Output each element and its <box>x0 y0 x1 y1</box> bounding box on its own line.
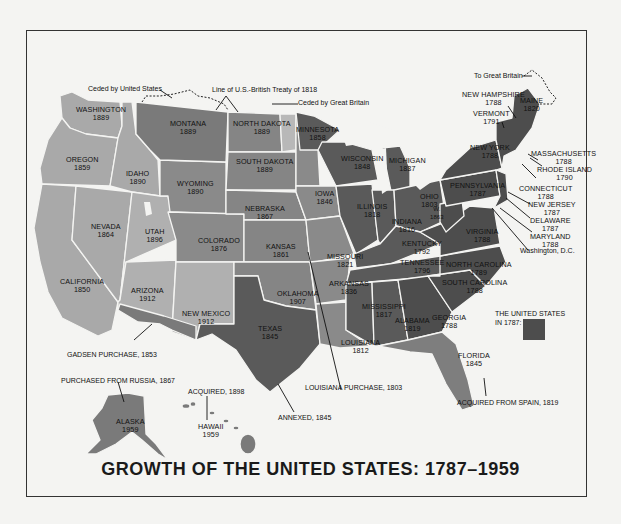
leader-spain <box>484 378 486 396</box>
annotation-louisiana-purchase: LOUISIANA PURCHASE, 1803 <box>305 384 402 392</box>
label-virginia: VIRGINIA1788 <box>466 228 498 244</box>
label-west-virginia: W.1863 <box>430 205 444 221</box>
label-indiana: INDIANA1816 <box>392 218 422 234</box>
label-georgia: GEORGIA1788 <box>432 314 466 330</box>
label-alabama: ALABAMA1819 <box>395 317 430 333</box>
annotation-ceded-by-us: Ceded by United States <box>88 85 162 93</box>
label-oklahoma: OKLAHOMA1907 <box>277 290 319 306</box>
label-north-carolina: NORTH CAROLINA1789 <box>446 261 512 277</box>
annotation-gadsen-purchase: GADSEN PURCHASE, 1853 <box>67 351 157 359</box>
leader-ct <box>522 164 536 178</box>
annotation-acquired-spain: ACQUIRED FROM SPAIN, 1819 <box>457 399 558 407</box>
label-missouri: MISSOURI1821 <box>327 253 363 269</box>
annotation-washington-dc: Washington, D.C. <box>520 247 575 255</box>
label-vermont: VERMONT1791 <box>473 110 510 126</box>
label-montana: MONTANA1889 <box>170 120 206 136</box>
label-south-dakota: SOUTH DAKOTA1889 <box>236 158 293 174</box>
annotation-purchased-russia: PURCHASED FROM RUSSIA, 1867 <box>61 377 175 385</box>
annotation-treaty-1818: Line of U.S.-British Treaty of 1818 <box>212 86 317 94</box>
label-nebraska: NEBRASKA1867 <box>245 205 285 221</box>
label-delaware: DELAWARE1787 <box>530 217 571 233</box>
label-wyoming: WYOMING1890 <box>177 180 214 196</box>
region-hawaii-4 <box>223 419 229 423</box>
region-hawaii-3 <box>209 411 215 415</box>
label-new-hampshire: NEW HAMPSHIRE1788 <box>462 91 525 107</box>
label-north-dakota: NORTH DAKOTA1889 <box>233 120 291 136</box>
label-south-carolina: SOUTH CAROLINA1788 <box>442 279 507 295</box>
leader-annexed <box>278 384 294 412</box>
label-rhode-island: RHODE ISLAND1790 <box>537 166 592 182</box>
label-washington: WASHINGTON1889 <box>76 106 126 122</box>
label-massachusetts: MASSACHUSETTS1788 <box>531 150 596 166</box>
label-colorado: COLORADO1876 <box>198 237 240 253</box>
label-new-york: NEW YORK1788 <box>470 144 510 160</box>
label-arizona: ARIZONA1912 <box>131 287 164 303</box>
leader-gadsen <box>134 324 152 340</box>
us-map <box>0 0 621 524</box>
region-hawaii-6 <box>240 434 256 454</box>
label-connecticut: CONNECTICUT1788 <box>519 185 572 201</box>
label-tennessee: TENNESSEE1796 <box>400 259 444 275</box>
label-florida: FLORIDA1845 <box>458 352 490 368</box>
label-kansas: KANSAS1861 <box>266 243 296 259</box>
leader-treaty-a <box>216 96 226 110</box>
label-iowa: IOWA1846 <box>315 190 334 206</box>
label-michigan: MICHIGAN1837 <box>389 157 426 173</box>
region-hawaii-2 <box>190 402 196 407</box>
label-illinois: ILLINOIS1818 <box>357 203 387 219</box>
label-alaska: ALASKA1959 <box>116 418 145 434</box>
label-louisiana: LOUISIANA1812 <box>341 339 380 355</box>
lake-superior <box>340 122 400 146</box>
annotation-to-great-britain: To Great Britain <box>474 72 523 80</box>
label-texas: TEXAS1845 <box>258 325 282 341</box>
label-oregon: OREGON1859 <box>66 156 99 172</box>
annotation-ceded-by-gb: Ceded by Great Britain <box>298 99 369 107</box>
label-idaho: IDAHO1890 <box>126 170 149 186</box>
region-hawaii-1 <box>182 404 190 409</box>
region-hawaii-5 <box>233 426 239 430</box>
label-minnesota: MINNESOTA1858 <box>296 126 339 142</box>
label-utah: UTAH1896 <box>145 228 164 244</box>
label-new-mexico: NEW MEXICO1912 <box>182 310 230 326</box>
label-kentucky: KENTUCKY1792 <box>402 240 442 256</box>
label-new-jersey: NEW JERSEY1787 <box>528 201 576 217</box>
annotation-annexed-1845: ANNEXED, 1845 <box>278 414 331 422</box>
leader-treaty-b <box>226 96 238 112</box>
label-arkansas: ARKANSAS1836 <box>329 280 369 296</box>
label-hawaii: HAWAII1959 <box>198 423 224 439</box>
label-pennsylvania: PENNSYLVANIA1787 <box>450 182 505 198</box>
legend-label: THE UNITED STATES IN 1787: <box>495 309 565 327</box>
annotation-acquired-1898: ACQUIRED, 1898 <box>188 388 244 396</box>
label-california: CALIFORNIA1850 <box>60 278 104 294</box>
label-wisconsin: WISCONSIN1848 <box>341 155 383 171</box>
label-maine: MAINE1820 <box>520 97 543 113</box>
map-title: GROWTH OF THE UNITED STATES: 1787–1959 <box>0 459 621 480</box>
label-nevada: NEVADA1864 <box>91 223 121 239</box>
